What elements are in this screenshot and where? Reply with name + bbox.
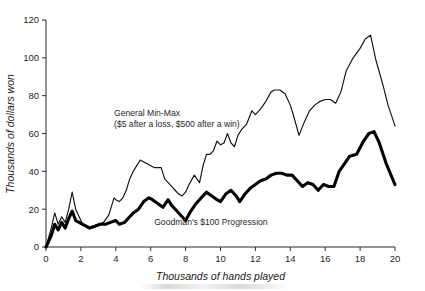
x-tick-label: 18 bbox=[355, 253, 366, 264]
x-axis-ticks: 02468101214161820 bbox=[43, 247, 400, 264]
series-goodman-progression bbox=[46, 132, 395, 247]
x-tick-label: 12 bbox=[250, 253, 261, 264]
x-tick-label: 8 bbox=[183, 253, 188, 264]
x-tick-label: 6 bbox=[148, 253, 153, 264]
general-min-max-label: General Min-Max($5 after a loss, $500 af… bbox=[114, 108, 240, 129]
goodman-label: Goodman's $100 Progression bbox=[154, 217, 268, 227]
y-tick-label: 120 bbox=[23, 14, 39, 25]
y-tick-label: 100 bbox=[23, 52, 39, 63]
chart-container: 020406080100120 02468101214161820 Genera… bbox=[0, 0, 425, 291]
page-artifact-smudge bbox=[140, 284, 290, 289]
x-tick-label: 2 bbox=[78, 253, 83, 264]
y-tick-label: 60 bbox=[28, 128, 39, 139]
x-tick-label: 10 bbox=[215, 253, 226, 264]
x-tick-label: 16 bbox=[320, 253, 331, 264]
x-tick-label: 0 bbox=[43, 253, 48, 264]
series-general-min-max bbox=[46, 35, 395, 247]
x-tick-label: 14 bbox=[285, 253, 296, 264]
x-tick-label: 20 bbox=[390, 253, 401, 264]
y-tick-label: 0 bbox=[34, 241, 39, 252]
x-tick-label: 4 bbox=[113, 253, 118, 264]
y-tick-label: 40 bbox=[28, 166, 39, 177]
y-tick-label: 20 bbox=[28, 204, 39, 215]
series-group bbox=[46, 35, 395, 247]
y-axis-title: Thousands of dollars won bbox=[4, 74, 16, 194]
y-tick-label: 80 bbox=[28, 90, 39, 101]
line-chart: 020406080100120 02468101214161820 Genera… bbox=[0, 0, 425, 291]
axes-group bbox=[46, 20, 395, 247]
y-axis-ticks: 020406080100120 bbox=[23, 14, 46, 252]
x-axis-title: Thousands of hands played bbox=[156, 270, 286, 282]
